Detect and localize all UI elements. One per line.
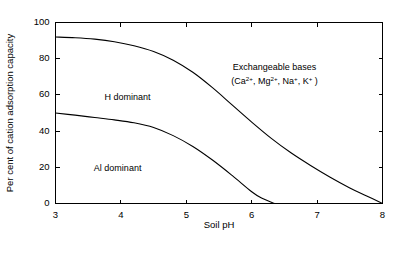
annotation-h-dominant: H dominant [104,92,151,102]
x-tick-label: 3 [53,209,58,220]
y-axis-title: Per cent of cation adsorption capacity [4,34,15,193]
figure-container: 020406080100 345678 H dominantAl dominan… [0,0,403,258]
annotation-al-dominant: Al dominant [94,163,142,173]
x-tick-label: 5 [184,209,189,220]
y-tick-label: 40 [39,125,50,136]
chart-background [0,0,403,258]
x-tick-label: 4 [118,209,123,220]
y-tick-label: 20 [39,161,50,172]
annotation-exchangeable-bases: Exchangeable bases [233,62,317,72]
y-tick-label: 100 [34,16,50,27]
soil-ph-cation-chart: 020406080100 345678 H dominantAl dominan… [0,0,403,258]
y-tick-label: 60 [39,88,50,99]
x-axis-title: Soil pH [204,219,235,230]
y-tick-label: 80 [39,52,50,63]
x-tick-label: 6 [249,209,254,220]
x-tick-label: 7 [314,209,319,220]
y-tick-label: 0 [44,197,49,208]
x-tick-label: 8 [380,209,385,220]
